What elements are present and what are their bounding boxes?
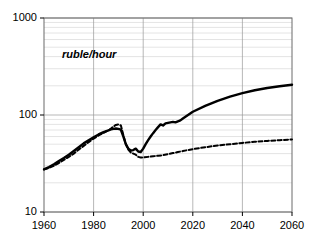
series-line-dashed-scenario xyxy=(44,124,292,169)
chart-plot-area xyxy=(0,0,312,243)
y-axis-tick-label: 100 xyxy=(19,109,37,120)
x-axis-tick-label: 1980 xyxy=(74,220,114,231)
x-axis-tick-label: 2040 xyxy=(222,220,262,231)
chart-annotation-label: ruble/hour xyxy=(62,48,116,60)
data-series-group xyxy=(44,85,292,170)
x-axis-tick-label: 1960 xyxy=(24,220,64,231)
x-axis-tick-label: 2000 xyxy=(123,220,163,231)
y-axis-tick-label: 10 xyxy=(25,206,37,217)
y-axis-ticks xyxy=(40,18,44,212)
minor-gridlines xyxy=(44,22,292,182)
x-axis-ticks xyxy=(44,212,292,216)
x-axis-tick-label: 2060 xyxy=(272,220,312,231)
x-axis-tick-label: 2020 xyxy=(173,220,213,231)
y-axis-tick-label: 1000 xyxy=(13,12,37,23)
series-line-solid-projection xyxy=(44,85,292,170)
chart-container: ruble/hour 101001000 1960198020002020204… xyxy=(0,0,312,243)
